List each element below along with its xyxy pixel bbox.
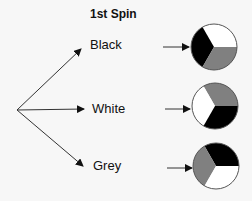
branch-arrow-grey <box>17 110 83 166</box>
branch-arrow-white <box>17 109 84 110</box>
outcome-label-white: White <box>92 101 125 116</box>
spinner-grey <box>193 143 239 189</box>
outcome-label-grey: Grey <box>93 158 121 173</box>
spinner-black <box>191 24 237 70</box>
tree-diagram <box>0 0 252 201</box>
outcome-label-black: Black <box>90 37 122 52</box>
spinner-white <box>192 83 238 129</box>
branch-arrow-black <box>17 49 81 110</box>
